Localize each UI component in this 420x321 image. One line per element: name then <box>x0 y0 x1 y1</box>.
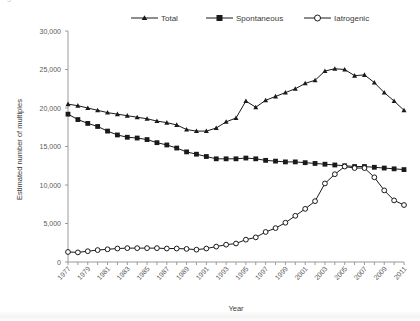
data-point <box>85 249 90 254</box>
data-point <box>66 250 71 255</box>
x-tick-label: 1993 <box>214 265 230 281</box>
data-point <box>293 160 298 165</box>
data-point <box>135 136 140 141</box>
data-point <box>243 156 248 161</box>
data-point <box>253 235 258 240</box>
data-point <box>283 160 288 165</box>
data-point <box>253 105 258 110</box>
y-tick-label: 30,000 <box>40 28 62 35</box>
data-point <box>214 156 219 161</box>
data-point <box>382 166 387 171</box>
data-point <box>313 199 318 204</box>
y-axis-ticks: 05,00010,00015,00020,00025,00030,000 <box>40 28 68 266</box>
y-tick-label: 25,000 <box>40 66 62 73</box>
data-point <box>303 206 308 211</box>
legend-label-total: Total <box>161 14 178 23</box>
data-point <box>66 102 71 107</box>
data-point <box>234 241 239 246</box>
x-tick-label: 1991 <box>194 265 210 281</box>
data-point <box>164 143 169 148</box>
x-axis-ticks: 1977197919811983198519871989199119931995… <box>56 262 408 281</box>
x-tick-label: 2007 <box>353 265 369 281</box>
data-point <box>313 161 318 166</box>
square-marker-icon <box>217 15 223 21</box>
data-point <box>402 203 407 208</box>
data-point <box>332 172 337 177</box>
data-point <box>283 220 288 225</box>
data-point <box>95 248 100 253</box>
data-point <box>95 124 100 129</box>
x-tick-label: 1985 <box>135 265 151 281</box>
data-point <box>243 98 248 103</box>
data-point <box>352 166 357 171</box>
legend-label-spontaneous: Spontaneous <box>236 14 283 23</box>
data-point <box>372 165 377 170</box>
legend-item-spontaneous[interactable]: Spontaneous <box>206 14 283 23</box>
data-point <box>105 247 110 252</box>
x-tick-label: 1997 <box>254 265 270 281</box>
data-point <box>85 121 90 126</box>
data-point <box>392 198 397 203</box>
data-point <box>392 166 397 171</box>
multiples-line-chart: Total Spontaneous Iatrogenic 05,00010,00… <box>0 0 420 321</box>
x-tick-label: 1987 <box>155 265 171 281</box>
data-point <box>66 112 71 117</box>
data-point <box>362 166 367 171</box>
data-point <box>145 246 150 251</box>
data-point <box>135 246 140 251</box>
data-point <box>145 137 150 142</box>
data-point <box>243 237 248 242</box>
data-point <box>402 167 407 172</box>
data-point <box>323 181 328 186</box>
partial-caption-text: Figure 1 <box>0 0 29 2</box>
data-point <box>155 246 160 251</box>
data-point <box>184 247 189 252</box>
data-point <box>303 160 308 165</box>
data-point <box>382 188 387 193</box>
y-tick-label: 5,000 <box>43 220 61 227</box>
data-point <box>253 156 258 161</box>
data-point <box>164 246 169 251</box>
data-point <box>204 246 209 251</box>
data-point <box>174 146 179 151</box>
partial-caption-clip: Figure 1 <box>0 0 420 7</box>
data-point <box>224 242 229 247</box>
x-tick-label: 1989 <box>175 265 191 281</box>
x-axis-title: Year <box>228 304 244 313</box>
data-point <box>273 226 278 231</box>
x-tick-label: 1977 <box>56 265 72 281</box>
data-point <box>115 133 120 138</box>
data-point <box>214 125 219 130</box>
data-point <box>105 129 110 134</box>
x-tick-label: 1983 <box>115 265 131 281</box>
data-point <box>204 154 209 159</box>
data-point <box>224 156 229 161</box>
x-tick-label: 2009 <box>372 265 388 281</box>
series-total <box>66 66 407 133</box>
data-point <box>263 158 268 163</box>
x-tick-label: 1979 <box>76 265 92 281</box>
data-point <box>174 246 179 251</box>
y-tick-label: 0 <box>57 259 61 266</box>
data-point <box>125 135 130 140</box>
x-tick-label: 1999 <box>274 265 290 281</box>
legend-item-total[interactable]: Total <box>131 14 178 23</box>
data-point <box>194 152 199 157</box>
data-point <box>234 156 239 161</box>
data-point <box>125 246 130 251</box>
data-point <box>323 162 328 167</box>
series-spontaneous <box>66 112 407 172</box>
y-tick-label: 15,000 <box>40 143 62 150</box>
data-point <box>342 164 347 169</box>
chart-legend: Total Spontaneous Iatrogenic <box>131 14 369 23</box>
legend-label-iatrogenic: Iatrogenic <box>334 14 369 23</box>
data-point <box>332 163 337 168</box>
data-point <box>184 149 189 154</box>
legend-item-iatrogenic[interactable]: Iatrogenic <box>304 14 369 23</box>
x-tick-label: 2001 <box>293 265 309 281</box>
data-point <box>75 250 80 255</box>
data-point <box>214 244 219 249</box>
x-tick-label: 2003 <box>313 265 329 281</box>
data-point <box>372 175 377 180</box>
figure-container: Figure 1 Total Spontaneous Iatrogenic 05… <box>0 0 420 321</box>
